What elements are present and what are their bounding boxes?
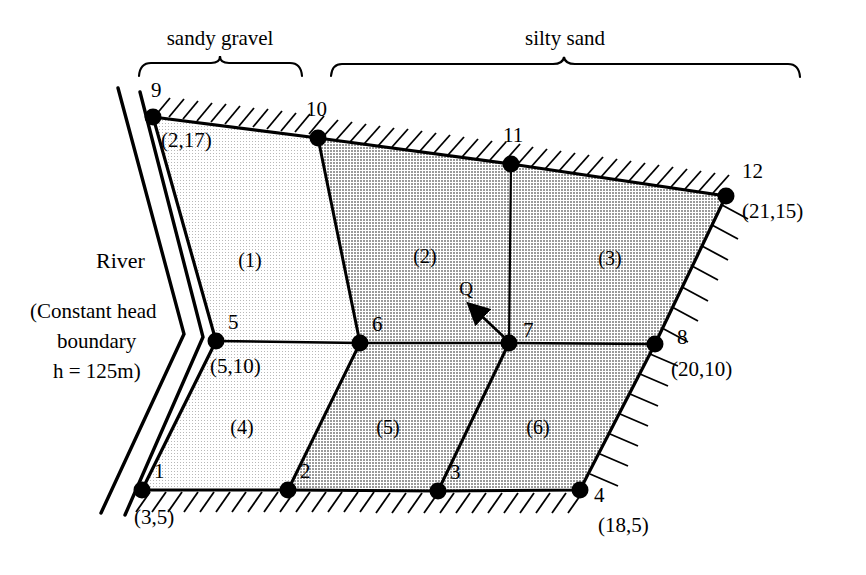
node-coord-5: (5,10) <box>210 354 261 378</box>
node-number-12: 12 <box>742 159 763 183</box>
element-label-3: (3) <box>598 247 621 270</box>
brace-sandy-gravel <box>139 56 302 76</box>
material-label-silty-sand: silty sand <box>525 26 605 50</box>
river-condition-line2: boundary <box>57 329 137 353</box>
element-label-1: (1) <box>238 249 261 272</box>
aquifer-mesh-figure: sandy gravel silty sand River (Constant … <box>0 0 866 575</box>
node-coord-8: (20,10) <box>671 357 732 381</box>
node-dot-8 <box>647 336 664 353</box>
node-dot-2 <box>280 482 297 499</box>
node-number-2: 2 <box>300 459 311 483</box>
node-dot-4 <box>572 482 589 499</box>
node-dot-3 <box>430 483 447 500</box>
material-braces <box>139 56 800 77</box>
node-dot-10 <box>310 130 327 147</box>
node-coord-9: (2,17) <box>161 128 212 152</box>
node-dot-9 <box>145 109 162 126</box>
node-number-3: 3 <box>450 460 461 484</box>
node-number-6: 6 <box>372 312 383 336</box>
element-label-6: (6) <box>526 416 549 439</box>
flux-label-Q: Q <box>459 278 473 299</box>
node-coord-4: (18,5) <box>598 513 649 537</box>
hatch-bottom-1-4 <box>136 492 582 513</box>
brace-silty-sand <box>331 57 800 77</box>
node-dot-11 <box>503 156 520 173</box>
element-label-5: (5) <box>376 416 399 439</box>
node-dot-6 <box>352 335 369 352</box>
element-label-4: (4) <box>230 416 253 439</box>
node-number-8: 8 <box>677 325 688 349</box>
node-number-7: 7 <box>523 318 534 342</box>
node-number-1: 1 <box>154 459 165 483</box>
river-condition-line1: (Constant head <box>30 299 157 323</box>
node-dot-5 <box>208 333 225 350</box>
material-label-sandy-gravel: sandy gravel <box>167 26 274 50</box>
node-coord-1: (3,5) <box>134 505 174 529</box>
node-number-9: 9 <box>151 78 162 102</box>
node-number-4: 4 <box>594 483 605 507</box>
node-number-10: 10 <box>306 97 327 121</box>
node-dot-12 <box>718 188 735 205</box>
node-dot-1 <box>134 482 151 499</box>
mesh-edge-7-8 <box>509 343 655 344</box>
river-label: River <box>96 248 146 273</box>
element-label-2: (2) <box>413 245 436 268</box>
node-number-11: 11 <box>503 123 523 147</box>
node-number-5: 5 <box>228 310 239 334</box>
river-condition-line3: h = 125m) <box>53 359 141 383</box>
node-coord-12: (21,15) <box>742 199 803 223</box>
